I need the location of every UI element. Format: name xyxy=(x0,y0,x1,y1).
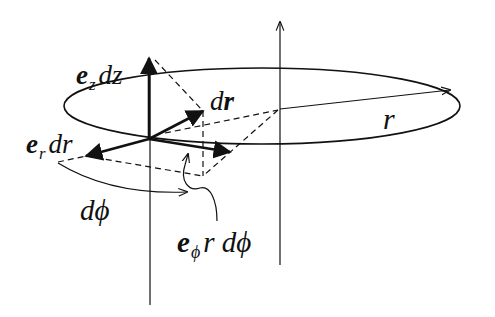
sub-phi: ϕ xyxy=(191,242,200,262)
vec-e: e xyxy=(177,226,190,258)
vec-e: e xyxy=(76,60,88,90)
label-dr-vector: dr xyxy=(210,88,234,115)
vec-e: e xyxy=(26,129,38,159)
radius-arrow xyxy=(280,90,450,109)
diagram-svg xyxy=(0,0,495,317)
sub-r: r xyxy=(39,144,46,163)
text-r-dphi: r dϕ xyxy=(203,226,251,258)
label-r: r xyxy=(383,104,395,134)
diagram-canvas: ezdz dr r erdr dϕ eϕr dϕ xyxy=(0,0,495,317)
label-ez-dz: ezdz xyxy=(76,62,123,89)
vec-r: r xyxy=(224,86,235,116)
circle-ellipse xyxy=(64,68,460,144)
text-d: d xyxy=(210,86,224,116)
text-dz: dz xyxy=(99,60,123,90)
label-er-dr: erdr xyxy=(26,131,73,158)
ephi-callout-arrow xyxy=(183,154,217,221)
label-dphi: dϕ xyxy=(80,196,110,225)
dphi-arc-arrow xyxy=(58,163,187,192)
sub-z: z xyxy=(89,75,96,94)
dr-arrow xyxy=(149,111,203,139)
er-dr-arrow xyxy=(86,139,149,156)
label-ephi-r-dphi: eϕr dϕ xyxy=(177,228,251,257)
text-dr: dr xyxy=(49,129,73,159)
